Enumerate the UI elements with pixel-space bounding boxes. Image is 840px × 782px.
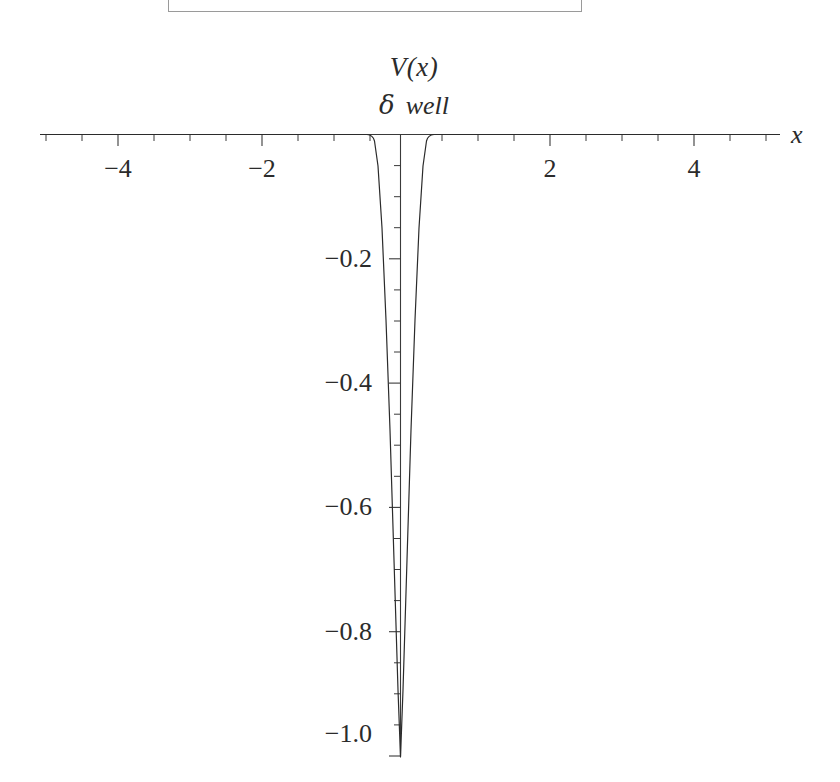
- x-tick-label-minus-2: −2: [248, 156, 276, 182]
- y-axis-minor-ticks: [394, 166, 401, 725]
- x-tick-label-minus-4: −4: [104, 156, 132, 182]
- x-axis-minor-ticks: [46, 135, 766, 142]
- y-tick-label-minus-0-2: −0.2: [300, 246, 372, 272]
- y-tick-label-minus-0-8: −0.8: [300, 619, 372, 645]
- delta-well-potential-plot: V(x) δwell −4 −2 2 4 −0.2 −0.4 −0.6 −0.8…: [0, 0, 840, 782]
- y-tick-label-minus-0-6: −0.6: [300, 494, 372, 520]
- potential-curve: [40, 135, 780, 758]
- x-tick-label-4: 4: [688, 156, 701, 182]
- y-tick-label-minus-0-4: −0.4: [300, 370, 372, 396]
- x-tick-label-2: 2: [544, 156, 557, 182]
- y-tick-label-minus-1-0: −1.0: [300, 721, 372, 747]
- y-axis-major-ticks: [389, 259, 401, 756]
- x-axis-major-ticks: [118, 135, 694, 147]
- x-axis-label: x: [791, 122, 803, 148]
- plot-canvas: [0, 0, 840, 782]
